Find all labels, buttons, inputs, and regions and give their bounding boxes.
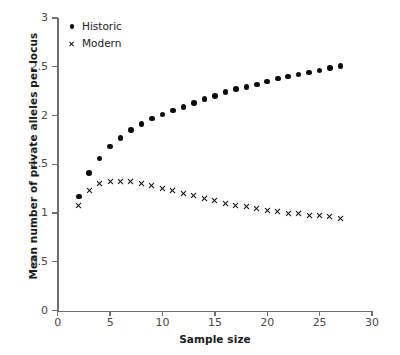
- y-axis-title: Mean number of private alleles per locus: [27, 26, 39, 286]
- y-tick-mark: [52, 164, 58, 165]
- data-point-historic: [97, 156, 103, 162]
- legend: HistoricModern: [66, 18, 176, 52]
- data-point-historic: [275, 76, 281, 82]
- x-axis-title: Sample size: [57, 333, 373, 345]
- data-point-modern: [159, 185, 166, 192]
- y-tick-mark: [52, 66, 58, 67]
- y-tick-label-text: 3: [22, 11, 48, 25]
- data-point-modern: [243, 203, 250, 210]
- x-tick-label: 5: [95, 316, 125, 330]
- data-point-modern: [75, 202, 82, 209]
- data-point-historic: [338, 63, 344, 69]
- data-point-modern: [107, 178, 114, 185]
- data-point-historic: [264, 79, 270, 85]
- data-point-historic: [285, 74, 291, 80]
- x-tick-label: 25: [305, 316, 335, 330]
- data-point-modern: [327, 213, 334, 220]
- data-point-modern: [201, 195, 208, 202]
- y-tick-mark: [52, 17, 58, 18]
- x-tick-label: 30: [357, 316, 387, 330]
- data-point-modern: [117, 178, 124, 185]
- marker-glyph: [70, 24, 74, 28]
- cross-marker-icon: [66, 38, 78, 50]
- data-point-modern: [180, 190, 187, 197]
- plot-area: 00.511.522.53 051015202530 HistoricModer…: [0, 0, 400, 355]
- data-point-modern: [211, 197, 218, 204]
- x-tick-label: 20: [252, 316, 282, 330]
- data-point-historic: [223, 89, 229, 95]
- data-point-modern: [138, 180, 145, 187]
- data-point-historic: [139, 121, 145, 127]
- data-point-modern: [306, 212, 313, 219]
- legend-item-modern[interactable]: Modern: [66, 35, 176, 52]
- y-tick-mark: [52, 261, 58, 262]
- y-axis-line: [57, 18, 59, 312]
- data-point-historic: [244, 84, 250, 90]
- marker-glyph: [69, 41, 75, 47]
- legend-item-label: Historic: [82, 18, 122, 35]
- data-point-modern: [232, 202, 239, 209]
- data-point-modern: [337, 215, 344, 222]
- data-point-modern: [149, 182, 156, 189]
- y-tick-mark: [52, 115, 58, 116]
- data-point-historic: [327, 65, 333, 71]
- data-point-historic: [202, 96, 208, 102]
- legend-item-label: Modern: [82, 35, 121, 52]
- data-point-historic: [107, 144, 113, 150]
- data-point-modern: [295, 210, 302, 217]
- data-point-historic: [254, 82, 260, 88]
- data-point-historic: [296, 72, 302, 78]
- data-point-historic: [149, 116, 155, 122]
- legend-item-historic[interactable]: Historic: [66, 18, 176, 35]
- data-point-historic: [160, 112, 166, 118]
- data-point-modern: [222, 200, 229, 207]
- data-point-historic: [191, 100, 197, 106]
- data-point-historic: [76, 194, 82, 200]
- data-point-modern: [86, 187, 93, 194]
- x-tick-label: 0: [43, 316, 73, 330]
- data-point-historic: [306, 70, 312, 76]
- data-point-historic: [128, 127, 134, 133]
- data-point-historic: [212, 93, 218, 99]
- y-tick-mark: [52, 212, 58, 213]
- data-point-modern: [253, 205, 260, 212]
- x-tick-label: 15: [200, 316, 230, 330]
- y-tick-label: 3: [22, 11, 48, 25]
- data-point-historic: [86, 170, 92, 176]
- data-point-modern: [170, 187, 177, 194]
- data-point-historic: [181, 104, 187, 110]
- circle-marker-icon: [66, 21, 78, 33]
- data-point-modern: [316, 212, 323, 219]
- data-point-historic: [170, 108, 176, 114]
- data-point-modern: [285, 210, 292, 217]
- data-point-modern: [128, 178, 135, 185]
- x-tick-label: 10: [148, 316, 178, 330]
- data-point-modern: [96, 180, 103, 187]
- chart-figure: 00.511.522.53 051015202530 HistoricModer…: [0, 0, 400, 355]
- data-point-modern: [274, 208, 281, 215]
- data-point-historic: [317, 68, 323, 74]
- data-point-historic: [233, 86, 239, 92]
- data-point-modern: [264, 207, 271, 214]
- data-point-historic: [118, 135, 124, 141]
- data-point-modern: [190, 192, 197, 199]
